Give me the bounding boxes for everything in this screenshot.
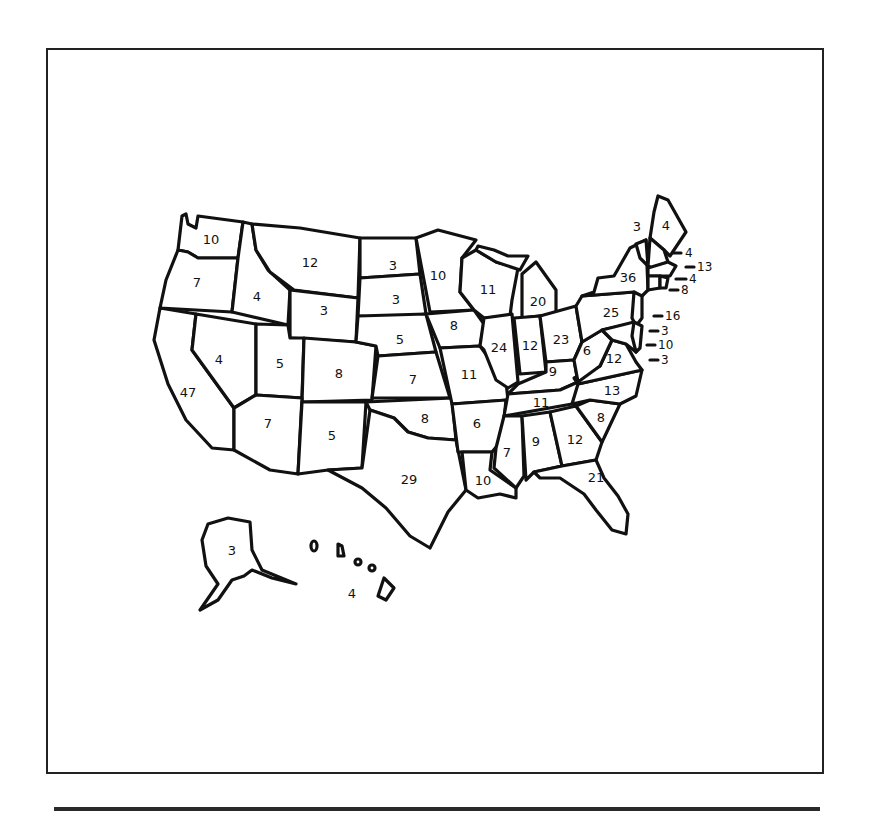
label-mi: 20 [530, 294, 547, 309]
label-ca: 47 [180, 385, 197, 400]
label-ny: 36 [620, 270, 637, 285]
label-al: 9 [532, 434, 540, 449]
callout-dc: 3 [661, 353, 669, 367]
label-co: 8 [335, 366, 343, 381]
label-tx: 29 [401, 472, 418, 487]
label-vt: 3 [633, 219, 641, 234]
label-il: 24 [491, 340, 508, 355]
label-id: 4 [253, 289, 261, 304]
state-michigan [522, 262, 556, 318]
label-mn: 10 [430, 268, 447, 283]
label-ms: 7 [503, 445, 511, 460]
state-alaska [200, 518, 296, 610]
state-connecticut [648, 276, 660, 290]
label-pa: 25 [603, 305, 620, 320]
state-florida [534, 460, 628, 534]
label-ut: 5 [276, 356, 284, 371]
callout-md: 10 [658, 338, 673, 352]
callout-ri: 4 [689, 272, 697, 286]
callout-de: 3 [661, 324, 669, 338]
label-wv: 6 [583, 343, 591, 358]
label-mo: 11 [461, 367, 478, 382]
label-in: 12 [522, 338, 539, 353]
label-ar: 6 [473, 416, 481, 431]
label-mt: 12 [302, 255, 319, 270]
label-nc: 13 [604, 383, 621, 398]
label-oh: 23 [553, 332, 570, 347]
state-delaware [632, 322, 642, 352]
hawaii-island-kauai [311, 541, 317, 551]
label-la: 10 [475, 473, 492, 488]
label-sc: 8 [597, 410, 605, 425]
label-az: 7 [264, 416, 272, 431]
label-sd: 3 [392, 292, 400, 307]
label-or: 7 [193, 275, 201, 290]
label-nm: 5 [328, 428, 336, 443]
callout-ct: 8 [681, 283, 689, 297]
callout-nj: 16 [665, 309, 680, 323]
label-ky: 9 [549, 364, 557, 379]
label-wa: 10 [203, 232, 220, 247]
state-rhode-island [660, 276, 668, 288]
label-tn: 11 [533, 395, 550, 410]
label-nd: 3 [389, 258, 397, 273]
label-ks: 7 [409, 372, 417, 387]
hawaii-island-oahu [338, 544, 344, 556]
label-ga: 12 [567, 432, 584, 447]
label-ak: 3 [228, 543, 236, 558]
label-nv: 4 [215, 352, 223, 367]
bottom-rule [54, 807, 820, 811]
label-wy: 3 [320, 303, 328, 318]
label-ia: 8 [450, 318, 458, 333]
label-ok: 8 [421, 411, 429, 426]
hawaii-island-molokai [355, 559, 361, 565]
hawaii-island-maui [369, 565, 375, 571]
label-fl: 21 [588, 470, 605, 485]
callout-ma: 13 [697, 260, 712, 274]
state-arizona [234, 395, 302, 474]
label-ne: 5 [396, 332, 404, 347]
label-va: 12 [606, 351, 623, 366]
label-wi: 11 [480, 282, 497, 297]
callout-nh: 4 [685, 246, 693, 260]
us-map: 10 7 47 4 4 12 3 5 7 8 5 3 3 5 7 8 29 10… [0, 0, 869, 817]
label-me: 4 [662, 218, 670, 233]
hawaii-island-big [378, 578, 394, 600]
label-hi: 4 [348, 586, 356, 601]
